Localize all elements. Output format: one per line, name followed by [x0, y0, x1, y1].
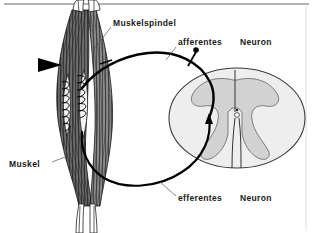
- label-efferentes-neuron: Neuron: [240, 194, 272, 203]
- spinal-cord-graphic: [169, 68, 305, 168]
- leader-line-efferentes: [160, 182, 176, 196]
- afferent-terminal-bouton: [193, 47, 199, 53]
- label-muskelspindel: Muskelspindel: [113, 19, 176, 28]
- muscle-spindle-reflex-figure: Muskelspindel afferentes Neuron Muskel e…: [0, 0, 313, 233]
- label-muskel: Muskel: [9, 160, 40, 169]
- label-efferentes: efferentes: [178, 194, 222, 203]
- central-canal: [235, 113, 240, 118]
- label-afferentes-neuron: Neuron: [240, 38, 272, 47]
- label-afferentes: afferentes: [178, 38, 222, 47]
